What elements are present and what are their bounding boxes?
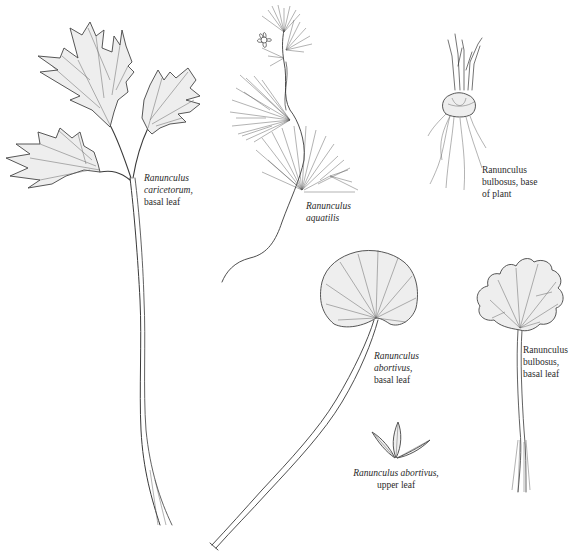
label-ranunculus-abortivus-basal: Ranunculus abortivus, basal leaf (374, 350, 419, 386)
compound-toothed-leaf-icon (6, 22, 200, 525)
label-line: Ranunculus (306, 200, 351, 212)
label-line: Ranunculus abortivus, (340, 467, 452, 479)
reniform-leaf-icon (210, 250, 418, 550)
label-line: Ranunculus (144, 172, 193, 184)
illustration-canvas (0, 0, 573, 560)
label-line: bulbosus, base (482, 176, 537, 188)
label-line: bulbosus, (523, 356, 568, 368)
three-lanceolate-leaflets-icon (372, 422, 430, 458)
label-ranunculus-caricetorum: Ranunculus caricetorum, basal leaf (144, 172, 193, 208)
label-line: Ranunculus (482, 164, 537, 176)
label-line: Ranunculus (523, 344, 568, 356)
label-line: basal leaf (144, 196, 193, 208)
label-line: of plant (482, 188, 537, 200)
label-line: abortivus, (374, 362, 419, 374)
aquatic-buttercup-icon (222, 5, 358, 282)
label-ranunculus-bulbosus-base: Ranunculus bulbosus, base of plant (482, 164, 537, 200)
label-line: basal leaf (523, 368, 568, 380)
label-ranunculus-aquatilis: Ranunculus aquatilis (306, 200, 351, 224)
label-ranunculus-abortivus-upper: Ranunculus abortivus, upper leaf (340, 467, 452, 491)
label-line: upper leaf (340, 479, 452, 491)
label-line: aquatilis (306, 212, 351, 224)
botanical-plate: Ranunculus caricetorum, basal leaf Ranun… (0, 0, 573, 560)
label-line: basal leaf (374, 374, 419, 386)
label-ranunculus-bulbosus-basal: Ranunculus bulbosus, basal leaf (523, 344, 568, 380)
label-line: caricetorum, (144, 184, 193, 196)
label-line: Ranunculus (374, 350, 419, 362)
bulb-with-roots-icon (428, 34, 486, 190)
